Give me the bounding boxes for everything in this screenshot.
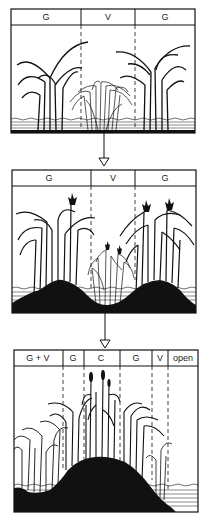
zone-label: G — [132, 353, 139, 363]
succession-diagram: G V G — [0, 0, 210, 524]
zone-label: G — [161, 173, 168, 183]
zone-label: G — [45, 173, 52, 183]
zone-label: G — [42, 12, 49, 22]
arrow-head-icon — [100, 340, 110, 348]
zone-label: G — [69, 353, 76, 363]
stage-1-panel: G V G — [11, 9, 195, 133]
zone-label: G — [161, 12, 168, 22]
zone-label: open — [173, 353, 193, 363]
stage-2-panel: G V G — [12, 170, 196, 313]
succession-arrow — [100, 313, 110, 348]
zone-label: V — [157, 353, 163, 363]
zone-label: G + V — [26, 353, 49, 363]
seed-head — [101, 370, 105, 380]
zone-label: V — [110, 173, 116, 183]
zone-label: C — [98, 353, 105, 363]
substrate — [11, 130, 195, 133]
seed-head — [89, 372, 93, 382]
succession-arrow — [99, 133, 109, 166]
zone-label: V — [105, 12, 111, 22]
seed-head — [107, 379, 110, 387]
arrow-head-icon — [99, 158, 109, 166]
stage-3-panel: G + V G C G V open — [14, 350, 198, 512]
